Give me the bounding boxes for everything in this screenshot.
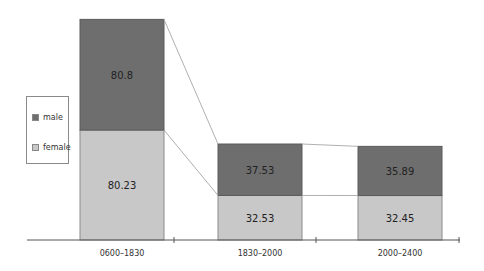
stacked-bar-chart: 80.2380.80600–183032.5337.531830–200032.… — [0, 0, 484, 271]
legend-item-female: female — [32, 143, 71, 152]
x-tick-label: 2000–2400 — [378, 249, 423, 258]
legend-swatch-male — [32, 114, 39, 121]
data-label: 80.8 — [111, 70, 133, 81]
connector-line — [164, 19, 218, 144]
legend-label-female: female — [43, 143, 71, 152]
data-label: 35.89 — [386, 166, 415, 177]
connector-line — [302, 144, 358, 146]
legend-label-male: male — [43, 113, 63, 122]
data-label: 32.53 — [246, 213, 275, 224]
data-label: 32.45 — [386, 213, 415, 224]
x-tick-label: 1830–2000 — [238, 249, 283, 258]
legend-item-male: male — [32, 113, 63, 122]
legend-swatch-female — [32, 144, 39, 151]
connector-line — [164, 130, 218, 195]
data-label: 80.23 — [108, 180, 137, 191]
x-tick-label: 0600–1830 — [100, 249, 145, 258]
data-label: 37.53 — [246, 165, 275, 176]
legend: male female — [26, 96, 69, 164]
